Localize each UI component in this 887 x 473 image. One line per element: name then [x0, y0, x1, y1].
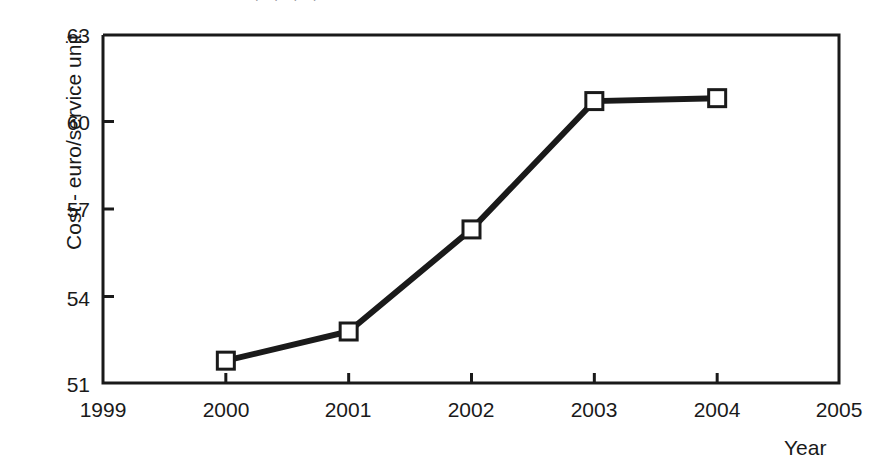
data-point-2001	[340, 323, 357, 340]
chart-figure: . . . . Cost - euro/service unit 63 60 5…	[0, 0, 887, 473]
data-point-2003	[586, 93, 603, 110]
data-point-2004	[709, 90, 726, 107]
plot-canvas	[0, 0, 887, 473]
y-tick-marks	[103, 122, 114, 297]
data-point-2002	[463, 221, 480, 238]
data-point-markers	[217, 90, 725, 370]
data-point-2000	[217, 352, 234, 369]
axis-frame	[103, 35, 839, 383]
